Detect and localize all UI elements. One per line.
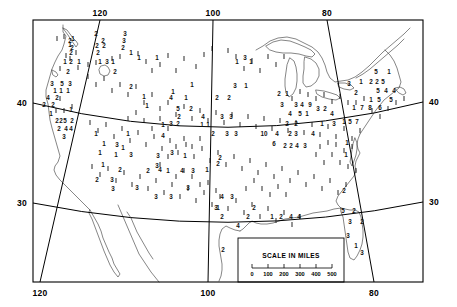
station-value: 4	[384, 87, 388, 94]
station-value: 2	[94, 30, 98, 37]
station-value: 2	[146, 167, 150, 174]
station-value: 4	[297, 213, 301, 220]
station-value: 2	[42, 101, 46, 108]
station-value: 2	[57, 125, 61, 132]
station-value: 1	[200, 121, 204, 128]
scale-bar-label: 200	[279, 271, 288, 277]
station-value: 2	[113, 68, 117, 75]
station-value: 2	[246, 213, 250, 220]
station-value: 2	[189, 105, 193, 112]
station-value: 2	[102, 42, 106, 49]
station-value: 3	[68, 80, 72, 87]
station-value: 4	[46, 94, 50, 101]
station-value: 2	[283, 142, 287, 149]
lat-label-right-40: 40	[429, 97, 439, 107]
station-value: 3	[123, 30, 127, 37]
station-value: 1	[183, 152, 187, 159]
station-value: 3	[346, 232, 350, 239]
scale-bar-label: 0	[250, 271, 253, 277]
station-value: 4	[289, 213, 293, 220]
station-value: 2	[211, 130, 215, 137]
station-value: 3	[169, 193, 173, 200]
station-value: 1	[344, 151, 348, 158]
station-value: 4	[392, 87, 396, 94]
station-value: 4	[236, 222, 240, 229]
station-value: 10	[260, 130, 268, 137]
station-value: 2	[177, 113, 181, 120]
station-value: 2	[118, 166, 122, 173]
station-value: 1	[249, 58, 253, 65]
station-value: 2	[288, 130, 292, 137]
station-value: 3	[122, 37, 126, 44]
station-value: 1	[142, 93, 146, 100]
station-value: 4	[201, 113, 205, 120]
station-value: 1	[320, 120, 324, 127]
station-value: 2	[95, 42, 99, 49]
station-value: 5	[341, 207, 345, 214]
scale-inset: SCALE IN MILES 0100200300400500	[238, 238, 344, 282]
lat-label-right-30: 30	[429, 197, 439, 207]
station-value: 4	[69, 125, 73, 132]
station-value: 3	[229, 113, 233, 120]
station-value: 3	[316, 105, 320, 112]
station-value: 2	[220, 213, 224, 220]
station-value: 1	[369, 96, 373, 103]
station-value: 3	[111, 185, 115, 192]
station-value: 3	[135, 184, 139, 191]
station-value: 3	[347, 80, 351, 87]
station-data-map: 1212212123531114222112252244322222332113…	[0, 0, 457, 307]
station-value: 5	[60, 80, 64, 87]
station-value: 1	[305, 110, 309, 117]
station-value: 5	[377, 96, 381, 103]
station-value: 4	[158, 166, 162, 173]
station-value: 2	[95, 176, 99, 183]
station-value: 1	[359, 78, 363, 85]
station-value: 2	[176, 120, 180, 127]
station-value: 1	[345, 139, 349, 146]
station-value: 2	[285, 120, 289, 127]
station-value: 3	[225, 130, 229, 137]
station-value: 4	[220, 193, 224, 200]
station-value: 3	[348, 218, 352, 225]
station-value: 2	[279, 213, 283, 220]
station-value: 2	[96, 49, 100, 56]
station-value: 1	[387, 68, 391, 75]
station-value: 1	[66, 87, 70, 94]
station-value: 3	[332, 120, 336, 127]
station-value: 1	[342, 118, 346, 125]
station-value: 1	[69, 106, 73, 113]
station-value: 5	[176, 105, 180, 112]
station-value: 3	[191, 167, 195, 174]
station-value: 4	[275, 130, 279, 137]
scale-bar-label: 100	[263, 271, 272, 277]
station-value: 3	[129, 151, 133, 158]
station-value: 2	[221, 246, 225, 253]
station-value: 3	[170, 149, 174, 156]
station-value: 3	[280, 101, 284, 108]
station-value: 3	[294, 101, 298, 108]
station-value: 1	[155, 54, 159, 61]
station-value: 2	[216, 160, 220, 167]
station-value: 5	[298, 110, 302, 117]
station-value: 1	[77, 58, 81, 65]
lon-label-bottom-100: 100	[200, 288, 215, 298]
station-value: 2	[227, 94, 231, 101]
station-value: 5	[348, 118, 352, 125]
station-value: 5	[376, 87, 380, 94]
station-value: 1	[98, 149, 102, 156]
station-value: 2	[69, 49, 73, 56]
map-canvas: 1212212123531114222112252244322222332113…	[0, 0, 457, 307]
station-value: 4	[288, 110, 292, 117]
station-value: 2	[369, 78, 373, 85]
lat-label-left-30: 30	[17, 198, 27, 208]
station-value: 3	[230, 193, 234, 200]
station-value: 2	[129, 83, 133, 90]
station-value: 1	[49, 110, 53, 117]
station-value: 4	[64, 125, 68, 132]
station-value: 5	[374, 68, 378, 75]
station-value: 3	[110, 176, 114, 183]
station-value: 2	[51, 101, 55, 108]
station-value: 2	[375, 78, 379, 85]
station-value: 3	[156, 152, 160, 159]
station-value: 2	[66, 68, 70, 75]
